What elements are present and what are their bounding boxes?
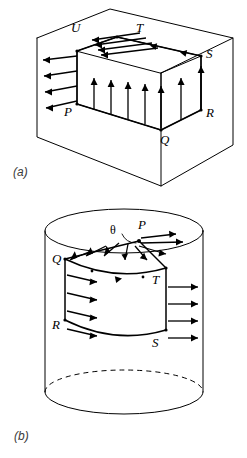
cylinder-vertex-dot-P [137, 239, 141, 243]
front-arrow-7 [198, 66, 205, 110]
cylinder-bottom-front-arc [45, 392, 203, 414]
disc-arrow-1 [141, 231, 176, 238]
panel-b-cylinder: θ P Q T R S (b) [14, 209, 203, 443]
arc-tick-1 [91, 270, 94, 273]
cylinder-label-S: S [152, 335, 159, 350]
cube-label-R: R [205, 105, 214, 120]
front-arrow-6 [178, 78, 185, 120]
cylinder-bottom-back-arc [45, 370, 203, 392]
side-arrow-1 [67, 275, 97, 285]
cube-front-face-arrows [91, 66, 205, 128]
cylinder-vertex-dot-R [63, 318, 66, 321]
left-arrow-3 [45, 86, 77, 96]
cube-label-T: T [136, 20, 144, 35]
left-arrow-4 [46, 101, 77, 112]
cylinder-label-T: T [152, 272, 160, 287]
panel-a-caption: (a) [13, 165, 28, 179]
cube-label-Q: Q [160, 132, 170, 147]
cylinder-vertex-dot-T [164, 266, 167, 269]
front-arrow-3 [125, 82, 132, 119]
front-arrow-1 [91, 78, 98, 109]
side-arrow-3 [67, 311, 97, 321]
cylinder-vertex-dot-S [164, 328, 167, 331]
side-arrow-7 [168, 318, 198, 325]
cylinder-label-Q: Q [52, 251, 62, 266]
front-arrow-5 [158, 86, 165, 128]
loop-arc-Q-T [65, 259, 166, 274]
disc-arrow-2 [141, 239, 183, 246]
arc-arrowhead-1 [115, 276, 122, 283]
loop-arc-R-S [65, 320, 166, 336]
cylinder-label-theta: θ [110, 223, 116, 237]
loop-edge-Q-P [77, 104, 161, 130]
side-arrow-5 [168, 284, 198, 291]
cylinder-top-ellipse [45, 209, 203, 253]
cube-top-face-arrows [92, 33, 187, 59]
cube-vertex-dot-T [115, 35, 118, 38]
cube-vertex-dot-R [199, 108, 202, 111]
disc-arrow-5 [121, 244, 128, 260]
cube-vertex-dot-P [75, 102, 78, 105]
side-arrow-2 [67, 293, 97, 303]
panel-b-caption: (b) [14, 429, 29, 443]
cube-vertex-dot-U [75, 49, 78, 52]
arc-tick-2 [142, 276, 145, 279]
cube-label-U: U [71, 20, 82, 35]
cube-inner-bottom-edges [77, 104, 201, 130]
left-arrow-2 [44, 71, 77, 80]
front-arrow-2 [108, 80, 115, 114]
side-arrow-8 [168, 335, 198, 342]
disc-arrow-7 [86, 246, 106, 256]
cylinder-vertex-dot-Q [63, 257, 66, 260]
figure-root: U T S P R Q (a) [0, 0, 247, 458]
cylinder-arc-arrowheads [91, 270, 145, 283]
cube-label-S: S [206, 46, 213, 61]
cylinder-label-P: P [137, 217, 146, 232]
cylinder-top-disc-arrows [70, 231, 183, 260]
disc-arrow-6 [104, 243, 119, 256]
left-arrow-1 [43, 56, 77, 64]
cylinder-label-R: R [51, 317, 60, 332]
figure-canvas: U T S P R Q (a) [0, 0, 247, 458]
front-arrow-4 [142, 84, 149, 124]
panel-a-cube: U T S P R Q (a) [13, 9, 233, 186]
cube-label-P: P [63, 104, 72, 119]
cube-vertex-dot-S [199, 54, 202, 57]
top-arrow-4 [101, 48, 158, 59]
cylinder-side-arrows [67, 275, 198, 342]
side-arrow-6 [168, 301, 198, 308]
